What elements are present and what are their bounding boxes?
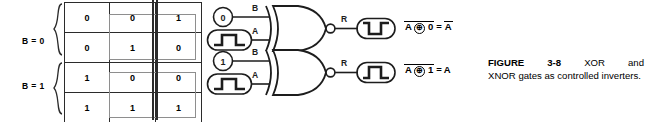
- r-pulse-waveform-icon: [363, 67, 389, 78]
- cell-a: 1: [110, 33, 156, 63]
- eq-term-a: A: [405, 64, 412, 75]
- b-source-value: 0: [220, 13, 225, 23]
- truth-table: 0 0 1 0 1 0 1 0 0 1 1 1: [64, 2, 198, 120]
- label-r-output: R: [341, 14, 347, 24]
- table-row: 1 1 1: [65, 93, 202, 123]
- caption-line-1: FIGURE 3-8 XOR and: [488, 57, 644, 70]
- eq-result: A: [444, 64, 451, 75]
- cell-a: 0: [110, 3, 156, 33]
- circuit-xnor-b1: 1 B A R: [206, 44, 396, 106]
- b-source-value: 1: [220, 57, 225, 67]
- eq-equals: =: [436, 21, 442, 32]
- table-double-rule-left: [152, 0, 154, 120]
- xnor-gate-body: [273, 50, 326, 95]
- equation-xnor-b0: A⊕0=A: [404, 21, 453, 34]
- cell-b: 1: [65, 93, 110, 123]
- r-waveform-capsule: [357, 19, 395, 39]
- caption-figure-number: 3-8: [547, 57, 561, 70]
- equation-left-overbar: A⊕0: [404, 21, 434, 34]
- caption-figure-word: FIGURE: [488, 57, 524, 70]
- cell-b: 0: [65, 3, 110, 33]
- equation-left-overbar: A⊕1: [404, 64, 434, 77]
- cell-a: 0: [110, 63, 156, 93]
- cell-r: 1: [156, 93, 202, 123]
- r-waveform-capsule: [357, 63, 395, 83]
- cell-b: 0: [65, 33, 110, 63]
- table-row: 0 0 1: [65, 3, 202, 33]
- a-pulse-waveform-icon: [214, 79, 245, 89]
- label-b-equals-1: B = 1: [22, 81, 45, 91]
- inversion-bubble-icon: [326, 68, 335, 77]
- table-row: 0 1 0: [65, 33, 202, 63]
- eq-result: A: [444, 21, 453, 33]
- table-double-rule-right: [156, 0, 158, 120]
- caption-word-and: and: [628, 57, 644, 70]
- caption-word-xor: XOR: [584, 57, 605, 70]
- eq-term-a: A: [405, 21, 412, 32]
- label-b-input: B: [252, 3, 258, 13]
- xor-operator-icon: ⊕: [414, 23, 425, 34]
- label-a-input: A: [252, 26, 258, 36]
- label-b-equals-0: B = 0: [22, 36, 45, 46]
- label-b-input: B: [252, 47, 258, 57]
- eq-term-b: 0: [428, 21, 433, 32]
- cell-r: 0: [156, 63, 202, 93]
- r-inverted-pulse-waveform-icon: [363, 23, 389, 34]
- truth-table-grid: 0 0 1 0 1 0 1 0 0 1 1 1: [64, 2, 202, 122]
- figure-caption: FIGURE 3-8 XOR and XNOR gates as control…: [488, 57, 644, 82]
- xor-operator-icon: ⊕: [414, 66, 425, 77]
- table-row: 1 0 0: [65, 63, 202, 93]
- label-r-output: R: [341, 58, 347, 68]
- figure-3-8: 0 0 1 0 1 0 1 0 0 1 1 1: [0, 0, 646, 122]
- cell-r: 0: [156, 33, 202, 63]
- cell-a: 1: [110, 93, 156, 123]
- cell-r: 1: [156, 3, 202, 33]
- a-waveform-capsule: [208, 74, 252, 94]
- eq-equals: =: [436, 64, 442, 75]
- xor-back-arc: [266, 50, 271, 95]
- equation-xnor-b1: A⊕1=A: [404, 64, 451, 77]
- inversion-bubble-icon: [326, 24, 335, 33]
- cell-b: 1: [65, 63, 110, 93]
- caption-line-rest: XNOR gates as controlled inverters.: [488, 70, 644, 83]
- label-a-input: A: [252, 70, 258, 80]
- group-braces: [48, 0, 68, 122]
- eq-term-b: 1: [428, 64, 433, 75]
